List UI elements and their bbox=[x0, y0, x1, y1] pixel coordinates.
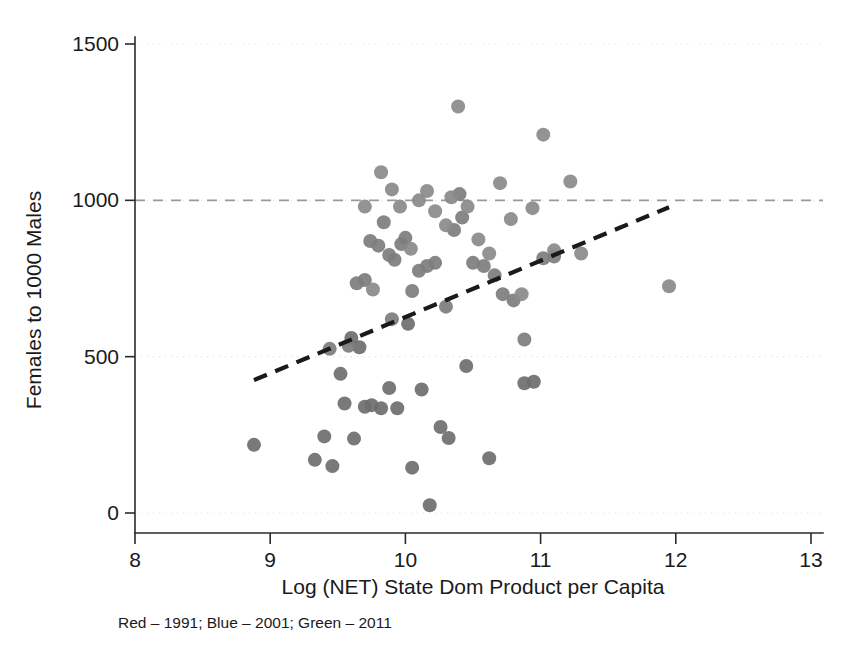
data-point-2011 bbox=[493, 176, 507, 190]
data-point-2011 bbox=[404, 242, 418, 256]
data-point-1991 bbox=[527, 375, 541, 389]
data-point-1991 bbox=[317, 429, 331, 443]
x-tick-label-10: 10 bbox=[394, 548, 417, 571]
data-point-2011 bbox=[563, 175, 577, 189]
data-point-2011 bbox=[428, 204, 442, 218]
data-point-2011 bbox=[444, 190, 458, 204]
data-point-1991 bbox=[423, 498, 437, 512]
y-axis-title: Females to 1000 Males bbox=[22, 191, 45, 409]
data-point-1991 bbox=[247, 438, 261, 452]
data-point-2011 bbox=[393, 200, 407, 214]
x-tick-label-12: 12 bbox=[664, 548, 687, 571]
y-tick-label-1500: 1500 bbox=[72, 32, 119, 55]
data-point-2001 bbox=[517, 332, 531, 346]
data-point-2001 bbox=[371, 239, 385, 253]
data-point-1991 bbox=[308, 453, 322, 467]
data-point-1991 bbox=[347, 432, 361, 446]
data-point-2011 bbox=[439, 218, 453, 232]
data-point-2001 bbox=[377, 215, 391, 229]
x-tick-label-8: 8 bbox=[129, 548, 141, 571]
data-point-1991 bbox=[459, 359, 473, 373]
data-point-1991 bbox=[382, 381, 396, 395]
data-point-1991 bbox=[325, 459, 339, 473]
data-point-2011 bbox=[461, 200, 475, 214]
data-point-1991 bbox=[442, 431, 456, 445]
x-tick-label-11: 11 bbox=[530, 548, 552, 571]
x-tick-label-9: 9 bbox=[264, 548, 276, 571]
data-point-2011 bbox=[482, 246, 496, 260]
data-point-2011 bbox=[366, 282, 380, 296]
data-point-2011 bbox=[374, 165, 388, 179]
x-tick-label-13: 13 bbox=[799, 548, 822, 571]
data-point-1991 bbox=[415, 383, 429, 397]
x-axis-title: Log (NET) State Dom Product per Capita bbox=[282, 575, 665, 598]
data-point-2011 bbox=[536, 128, 550, 142]
data-point-2011 bbox=[451, 100, 465, 114]
data-point-1991 bbox=[390, 401, 404, 415]
data-point-2011 bbox=[662, 279, 676, 293]
data-point-1991 bbox=[482, 451, 496, 465]
scatter-plot-figure: 050010001500 8910111213 Females to 1000 … bbox=[0, 0, 855, 656]
data-point-2001 bbox=[405, 284, 419, 298]
data-point-2011 bbox=[504, 212, 518, 226]
data-point-2011 bbox=[515, 287, 529, 301]
y-tick-label-0: 0 bbox=[107, 501, 119, 524]
data-point-2011 bbox=[525, 201, 539, 215]
data-point-2001 bbox=[477, 259, 491, 273]
y-tick-label-500: 500 bbox=[84, 345, 119, 368]
y-tick-label-1000: 1000 bbox=[72, 188, 119, 211]
data-point-2001 bbox=[388, 253, 402, 267]
data-point-2011 bbox=[385, 182, 399, 196]
data-point-2011 bbox=[574, 246, 588, 260]
data-point-1991 bbox=[405, 461, 419, 475]
data-point-2001 bbox=[428, 256, 442, 270]
plot-svg: 050010001500 8910111213 Females to 1000 … bbox=[0, 0, 855, 656]
data-point-2011 bbox=[420, 184, 434, 198]
data-point-1991 bbox=[338, 397, 352, 411]
data-point-1991 bbox=[374, 401, 388, 415]
data-point-2011 bbox=[358, 200, 372, 214]
data-point-1991 bbox=[334, 367, 348, 381]
data-point-2011 bbox=[471, 232, 485, 246]
chart-caption: Red – 1991; Blue – 2001; Green – 2011 bbox=[118, 614, 392, 631]
